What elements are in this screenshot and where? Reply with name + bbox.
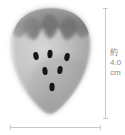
width-dimension-line — [10, 127, 100, 128]
width-dimension-cap-left — [10, 125, 11, 130]
height-dimension-cap-top — [103, 8, 108, 9]
strawberry-illustration — [0, 0, 102, 120]
specimen-figure: 約 4.0 cm — [0, 0, 125, 135]
height-unit: cm — [110, 68, 125, 78]
height-approx-prefix: 約 — [110, 48, 125, 58]
width-dimension-cap-right — [100, 125, 101, 130]
calyx-lobe-right — [61, 17, 77, 39]
height-value: 4.0 — [110, 58, 125, 68]
seed — [49, 83, 54, 91]
body-highlight — [0, 0, 46, 120]
height-measurement-label: 約 4.0 cm — [110, 48, 125, 78]
height-dimension-line — [105, 8, 106, 118]
specimen-image — [0, 0, 102, 120]
height-dimension-cap-bottom — [103, 118, 108, 119]
